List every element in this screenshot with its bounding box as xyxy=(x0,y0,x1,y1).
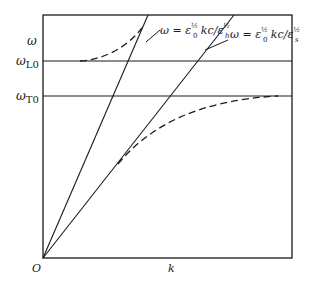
formula-low-frequency: ω = ε½0 kc/ε½s xyxy=(230,26,300,44)
omega-T0-label: ωT0 xyxy=(16,89,39,105)
plot-frame xyxy=(43,15,292,258)
leader-line-2 xyxy=(205,40,228,50)
lower-branch-curve xyxy=(118,96,278,164)
omega-L0-label: ωL0 xyxy=(16,54,39,70)
steep-light-line xyxy=(43,15,148,258)
polariton-dispersion-diagram: ω ωL0 ωT0 O k ω = ε½0 kc/ε½h ω = ε½0 kc/… xyxy=(0,0,311,284)
leader-line-1 xyxy=(146,30,160,42)
x-axis-label: k xyxy=(168,262,175,275)
upper-branch-curve xyxy=(80,28,142,61)
shallow-light-line xyxy=(43,15,234,258)
y-axis-label: ω xyxy=(27,34,37,48)
formula-high-frequency: ω = ε½0 kc/ε½h xyxy=(160,22,230,40)
origin-label: O xyxy=(32,262,41,275)
